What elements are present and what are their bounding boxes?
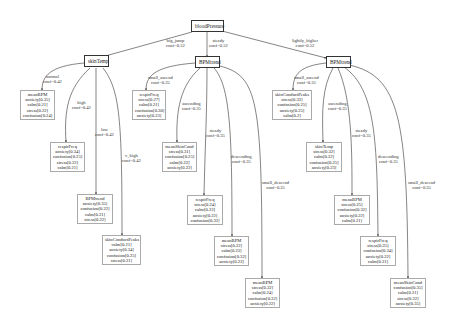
leaf-row: calm[0.21] [23,102,52,107]
leaf-row: anxiety[0.35] [393,301,423,306]
leaf-node: skinTemp stress[0.32] calm[0.22] confusi… [306,142,342,172]
leaf-row: confusion[0.25] [275,102,309,107]
edge-label: descending conf=0.35 [231,154,252,164]
edge-label: small_descend conf=0.35 [408,180,435,190]
edge-label-conf: conf=0.42 [122,158,141,163]
edge-bpm-right-steady [338,68,352,195]
leaf-row: calm[0.2] [275,113,309,118]
leaf-row: calm[0.21] [363,259,393,264]
edge-label: descending conf=0.35 [378,154,399,164]
edge-label: lightly_higher conf=0.52 [292,38,318,48]
edge-label: high conf=0.42 [72,100,91,110]
leaf-node: respirFreq anxiety[0.34] confusion[0.25]… [50,142,85,172]
leaf-row: confusion[0.32] [190,218,220,223]
edge-label-conf: conf=0.52 [209,43,228,48]
edge-label: steady conf=0.35 [352,128,371,138]
edge-label-conf: conf=0.42 [72,105,91,110]
decision-tree-diagram: bloodPressure skinTemp BPMtrend BPMtrend… [0,0,453,321]
internal-node-skintemp: skinTemp [84,55,109,67]
leaf-row: calm[0.23] [217,248,246,253]
leaf-row: calm[0.21] [135,102,163,107]
leaf-node: respirFreq stress[0.24] calm[0.23] anxie… [187,195,223,225]
leaf-node: meanBPM stress[0.32] calm[0.24] confusio… [245,278,280,308]
edge-label-conf: conf=0.35 [378,159,399,164]
internal-node-bpmtrend-right: BPMtrend [326,56,351,68]
edge-label-conf: conf=0.52 [166,43,185,48]
leaf-node: meanBPM anxiety[0.35] calm[0.21] stress[… [20,90,55,120]
edge-label: small_descend conf=0.35 [262,180,289,190]
leaf-row: anxiety[0.22] [248,301,277,306]
leaf-node: respirFreq stress[0.27] calm[0.21] confu… [132,90,166,120]
edge-label-conf: conf=0.35 [206,133,225,138]
leaf-node: BPMtrend anxiety[0.35] confusion[0.22] c… [77,194,113,224]
edge-label: big_jump conf=0.52 [166,38,185,48]
leaf-node: meanBPM stress[0.22] calm[0.23] confusio… [214,236,249,266]
edge-label-conf: conf=0.35 [262,185,289,190]
edge-label: low conf=0.42 [95,127,114,137]
leaf-row: confusion[0.34] [363,248,393,253]
leaf-node: meanBPM stress[0.25] confusion[0.32] anx… [334,195,370,225]
leaf-row: anxiety[0.34] [105,247,138,252]
node-label: BPMtrend [199,59,221,65]
edge-label: ascending conf=0.35 [182,101,201,111]
edge-label: v_high conf=0.42 [122,153,141,163]
edge-label-conf: conf=0.35 [408,185,435,190]
internal-node-bpmtrend-mid: BPMtrend [195,56,220,68]
leaf-row: confusion[0.25] [53,154,82,159]
node-label: bloodPressure [195,23,224,29]
edge-label: ascending conf=0.35 [328,101,347,111]
edge-label-conf: conf=0.35 [328,106,347,111]
leaf-node: meanSkinCond stress[0.31] confusion[0.25… [162,142,197,172]
edge-label-conf: conf=0.35 [182,106,201,111]
leaf-row: anxiety[0.22] [165,165,194,170]
edge-label-conf: conf=0.35 [148,80,173,85]
node-label: skinTemp [88,58,108,64]
leaf-row: confusion[0.32] [337,207,367,212]
leaf-node: skinConductPeaks calm[0.21] anxiety[0.34… [102,235,141,265]
leaf-node: skinConductPeaks stress[0.32] confusion[… [272,90,312,120]
edge-label-conf: conf=0.35 [352,133,371,138]
edge-label-conf: conf=0.35 [231,159,252,164]
leaf-row: confusion[0.24] [23,113,52,118]
edge-label-conf: conf=0.42 [43,79,62,84]
edge-label-conf: conf=0.52 [292,43,318,48]
leaf-row: anxiety[0.23] [309,165,339,170]
leaf-row: calm[0.24] [248,290,277,295]
leaf-row: anxiety[0.23] [135,113,163,118]
leaf-row: anxiety[0.23] [217,259,246,264]
leaf-node: meanSkinCond confusion[0.35] calm[0.21] … [390,278,426,308]
leaf-node: respirFreq stress[0.25] confusion[0.34] … [360,236,396,266]
leaf-row: stress[0.22] [80,217,110,222]
leaf-row: stress[0.21] [105,258,138,263]
edge-label: small_ascend conf=0.35 [294,75,319,85]
leaf-row: calm[0.21] [337,218,367,223]
edge-label: steady conf=0.35 [206,128,225,138]
root-node: bloodPressure [191,20,224,32]
leaf-row: confusion[0.22] [80,206,110,211]
edge-label-conf: conf=0.42 [95,132,114,137]
edge-label-conf: conf=0.35 [294,80,319,85]
leaf-row: confusion[0.25] [165,154,194,159]
edge-label: normal conf=0.42 [43,74,62,84]
edge-label: steady conf=0.52 [209,38,228,48]
leaf-row: calm[0.21] [53,165,82,170]
edge-label: small_ascend conf=0.35 [148,75,173,85]
node-label: BPMtrend [330,59,352,65]
